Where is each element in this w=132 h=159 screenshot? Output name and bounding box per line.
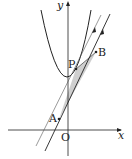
y-axis-label: y xyxy=(56,0,64,12)
point-a xyxy=(58,118,61,121)
tangent-arrow-icon xyxy=(92,27,96,33)
y-axis-arrow-icon xyxy=(66,1,70,6)
origin-label: O xyxy=(61,131,70,144)
point-a-label: A xyxy=(48,112,58,125)
tangent-line-p xyxy=(36,15,101,146)
point-b xyxy=(95,51,98,54)
diagram-canvas: y x O P A B xyxy=(0,0,132,159)
point-b-label: B xyxy=(98,46,106,59)
x-axis-label: x xyxy=(118,129,125,142)
point-p-label: P xyxy=(68,58,76,71)
